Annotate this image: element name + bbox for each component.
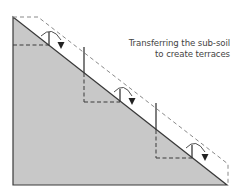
caption-line-2: to create terraces <box>100 49 230 60</box>
diagram-caption: Transferring the sub-soil to create terr… <box>100 38 230 60</box>
terrace-diagram <box>0 0 241 195</box>
caption-line-1: Transferring the sub-soil <box>100 38 230 49</box>
